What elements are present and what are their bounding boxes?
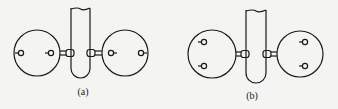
connector-left-b [241, 51, 249, 58]
electrode-right-0-a [108, 50, 113, 55]
connector-left-a [66, 50, 74, 57]
tube-break-b [246, 10, 266, 12]
u-tube-b [246, 10, 266, 83]
disc-left-b [188, 30, 236, 78]
connector-right-a [87, 50, 95, 57]
electrode-left-0-a [18, 50, 23, 55]
panel-a-label: (a) [77, 86, 88, 97]
electrode-left-1-a [48, 50, 53, 55]
connector-right-b [263, 51, 271, 58]
diagram-canvas [0, 0, 338, 109]
electrode-left-1-b [201, 63, 206, 68]
electrode-right-0-b [302, 39, 307, 44]
electrode-right-1-a [138, 50, 143, 55]
panel-b-label: (b) [246, 90, 258, 101]
u-tube-a [71, 8, 90, 78]
disc-right-b [277, 31, 323, 77]
electrode-left-0-b [201, 39, 206, 44]
electrode-right-1-b [302, 63, 307, 68]
tube-break-a [71, 8, 90, 10]
